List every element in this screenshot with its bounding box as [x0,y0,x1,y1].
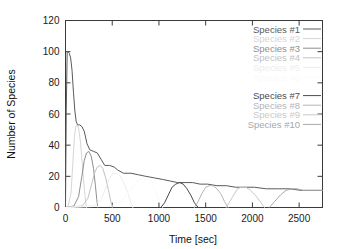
y-tick-label: 20 [48,171,60,182]
x-tick-label: 0 [63,213,69,224]
line-chart: 02040608010012005001000150020002500 Time… [0,0,341,249]
x-tick-label: 1500 [195,213,218,224]
legend-label-10: Species #10 [248,119,300,130]
legend-label-6: Species #6 [253,72,300,83]
x-tick-label: 1000 [148,213,171,224]
y-tick-label: 120 [43,15,60,26]
y-tick-label: 80 [48,77,60,88]
y-tick-label: 0 [54,202,60,213]
chart-figure: 02040608010012005001000150020002500 Time… [0,0,341,249]
y-axis-title: Number of Species [5,69,17,158]
x-tick-label: 2500 [288,213,311,224]
y-tick-label: 100 [43,46,60,57]
x-tick-label: 500 [104,213,121,224]
y-tick-label: 60 [48,109,60,120]
y-tick-label: 40 [48,140,60,151]
x-axis-title: Time [sec] [169,233,217,245]
x-tick-label: 2000 [241,213,264,224]
